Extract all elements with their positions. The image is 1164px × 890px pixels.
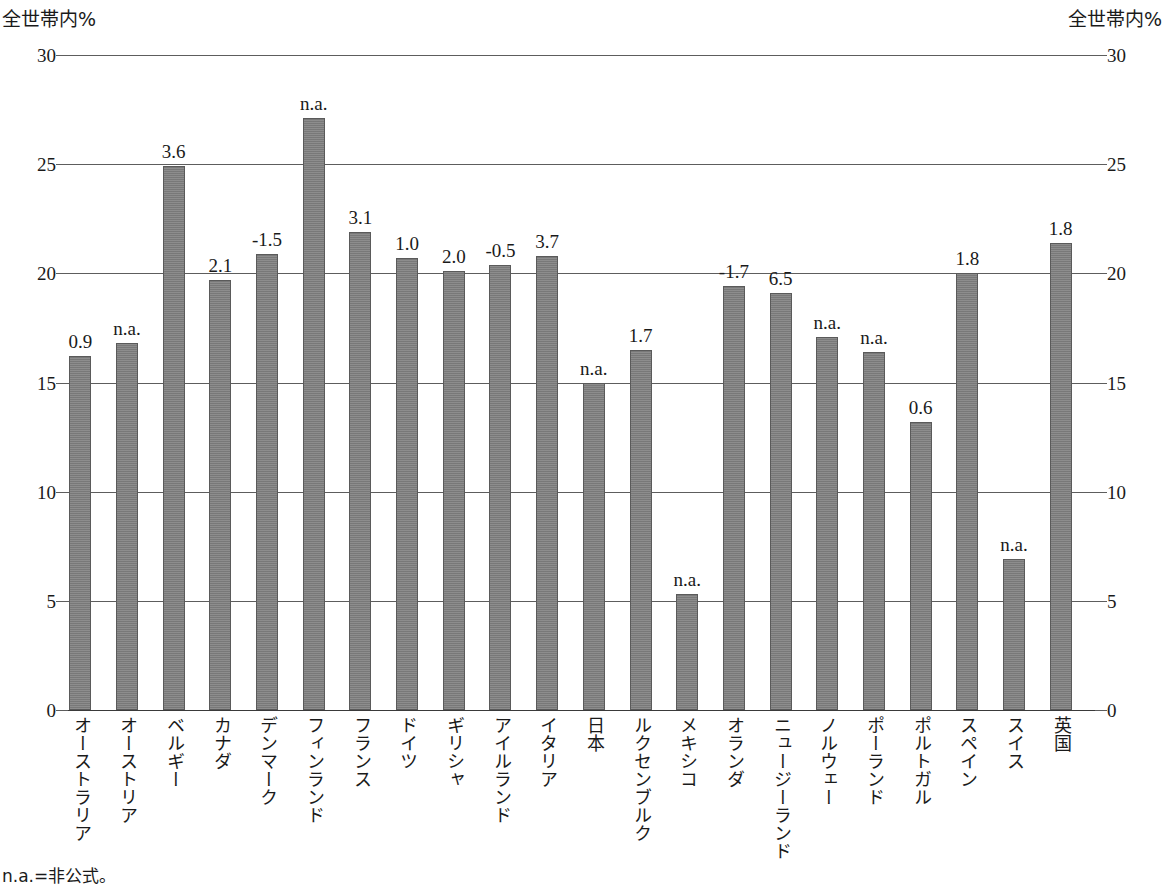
category-label: メキシコ [678, 716, 696, 788]
bar-slot: 2.1 [209, 55, 231, 710]
y-tick-label-left-5: 5 [47, 591, 57, 610]
y-tick-label-left-20: 20 [37, 264, 56, 283]
tick-mark-left-20 [56, 273, 68, 274]
y-tick-label-left-10: 10 [37, 482, 56, 501]
category-label: ベルギー [165, 716, 183, 788]
category-label: カナダ [211, 716, 229, 770]
bar[interactable] [349, 232, 371, 710]
bar-value-label: 6.5 [769, 269, 793, 288]
bar[interactable] [396, 258, 418, 710]
bar-slot: -1.5 [256, 55, 278, 710]
bar[interactable] [443, 271, 465, 710]
bar-slot: 0.6 [910, 55, 932, 710]
bar[interactable] [163, 166, 185, 710]
bars-group: 0.9n.a.3.62.1-1.5n.a.3.11.02.0-0.53.7n.a… [68, 55, 1095, 710]
tick-mark-left-15 [56, 383, 68, 384]
footnote: n.a.=非公式。 [2, 862, 116, 887]
bar-slot: 2.0 [443, 55, 465, 710]
bar[interactable] [116, 343, 138, 710]
bar-value-label: n.a. [860, 328, 887, 347]
bar[interactable] [630, 350, 652, 710]
bar-value-label: n.a. [580, 359, 607, 378]
bar[interactable] [1050, 243, 1072, 710]
bar[interactable] [910, 422, 932, 710]
bar[interactable] [863, 352, 885, 710]
bar[interactable] [536, 256, 558, 710]
bar-value-label: -0.5 [485, 241, 515, 260]
bar-slot: n.a. [116, 55, 138, 710]
bar[interactable] [676, 594, 698, 710]
right-axis-unit-label: 全世帯内% [1068, 4, 1162, 31]
category-label: ニュージーランド [771, 716, 789, 860]
category-label: 日本 [585, 716, 603, 752]
tick-mark-left-0 [56, 710, 68, 711]
bar-value-label: n.a. [814, 313, 841, 332]
category-label: ドイツ [398, 716, 416, 770]
bar-value-label: 1.0 [395, 234, 419, 253]
bar-slot: 3.1 [349, 55, 371, 710]
bar[interactable] [816, 337, 838, 710]
bar-slot: 0.9 [69, 55, 91, 710]
bar-slot: n.a. [583, 55, 605, 710]
y-tick-label-left-15: 15 [37, 373, 56, 392]
bar[interactable] [1003, 559, 1025, 710]
tick-mark-right-5 [1095, 601, 1107, 602]
y-tick-label-left-0: 0 [47, 701, 57, 720]
tick-mark-right-10 [1095, 492, 1107, 493]
bar-value-label: n.a. [673, 570, 700, 589]
y-tick-label-right-20: 20 [1107, 264, 1126, 283]
category-label: フランス [351, 716, 369, 788]
category-label: イタリア [538, 716, 556, 788]
bar-slot: 3.7 [536, 55, 558, 710]
bar[interactable] [583, 383, 605, 711]
bar[interactable] [770, 293, 792, 710]
bar-value-label: 2.0 [442, 247, 466, 266]
bar-slot: 1.0 [396, 55, 418, 710]
bar-slot: 1.8 [1050, 55, 1072, 710]
category-axis-labels: オーストラリアオーストリアベルギーカナダデンマークフィンランドフランスドイツギリ… [68, 716, 1095, 864]
bar-slot: 6.5 [770, 55, 792, 710]
bar[interactable] [489, 265, 511, 710]
bar-value-label: 3.7 [535, 232, 559, 251]
category-label: ギリシャ [445, 716, 463, 788]
bar-slot: -1.7 [723, 55, 745, 710]
category-label: オランダ [725, 716, 743, 788]
tick-mark-right-15 [1095, 383, 1107, 384]
category-label: オーストラリア [71, 716, 89, 842]
y-tick-label-right-0: 0 [1107, 701, 1117, 720]
bar[interactable] [723, 286, 745, 710]
tick-mark-left-25 [56, 164, 68, 165]
bar-value-label: 1.8 [1049, 219, 1073, 238]
bar-value-label: -1.5 [252, 230, 282, 249]
y-tick-label-right-10: 10 [1107, 482, 1126, 501]
bar[interactable] [209, 280, 231, 710]
bar-value-label: 3.1 [349, 208, 373, 227]
y-tick-label-right-25: 25 [1107, 155, 1126, 174]
category-label: 英国 [1051, 716, 1069, 752]
y-tick-label-left-25: 25 [37, 155, 56, 174]
category-label: オーストリア [118, 716, 136, 824]
bar[interactable] [69, 356, 91, 710]
y-tick-label-right-30: 30 [1107, 46, 1126, 65]
category-label: アイルランド [491, 716, 509, 824]
category-label: ポルトガル [911, 716, 929, 806]
left-axis-unit-label: 全世帯内% [2, 4, 96, 31]
bar-value-label: 1.7 [629, 326, 653, 345]
tick-mark-left-5 [56, 601, 68, 602]
bar-value-label: n.a. [113, 319, 140, 338]
bar-value-label: n.a. [300, 94, 327, 113]
bar[interactable] [956, 273, 978, 710]
category-label: ノルウェー [818, 716, 836, 806]
y-tick-label-left-30: 30 [37, 46, 56, 65]
bar-value-label: -1.7 [719, 262, 749, 281]
tick-mark-right-25 [1095, 164, 1107, 165]
y-tick-label-right-15: 15 [1107, 373, 1126, 392]
category-label: スイス [1005, 716, 1023, 770]
bar-slot: 1.7 [630, 55, 652, 710]
tick-mark-right-0 [1095, 710, 1107, 711]
bar[interactable] [303, 118, 325, 710]
bar[interactable] [256, 254, 278, 710]
y-tick-label-right-5: 5 [1107, 591, 1117, 610]
category-label: デンマーク [258, 716, 276, 806]
tick-mark-left-30 [56, 55, 68, 56]
